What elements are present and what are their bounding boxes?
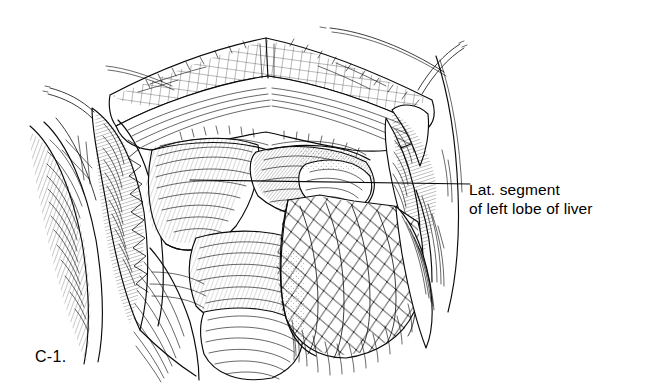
callout-line-2: of left lobe of liver bbox=[469, 199, 593, 218]
figure-number-label: C-1. bbox=[35, 348, 66, 366]
callout-line-1: Lat. segment bbox=[469, 180, 593, 199]
surgical-illustration-figure: Lat. segment of left lobe of liver C-1. bbox=[0, 0, 646, 390]
callout-lat-segment-left-lobe: Lat. segment of left lobe of liver bbox=[469, 180, 593, 218]
